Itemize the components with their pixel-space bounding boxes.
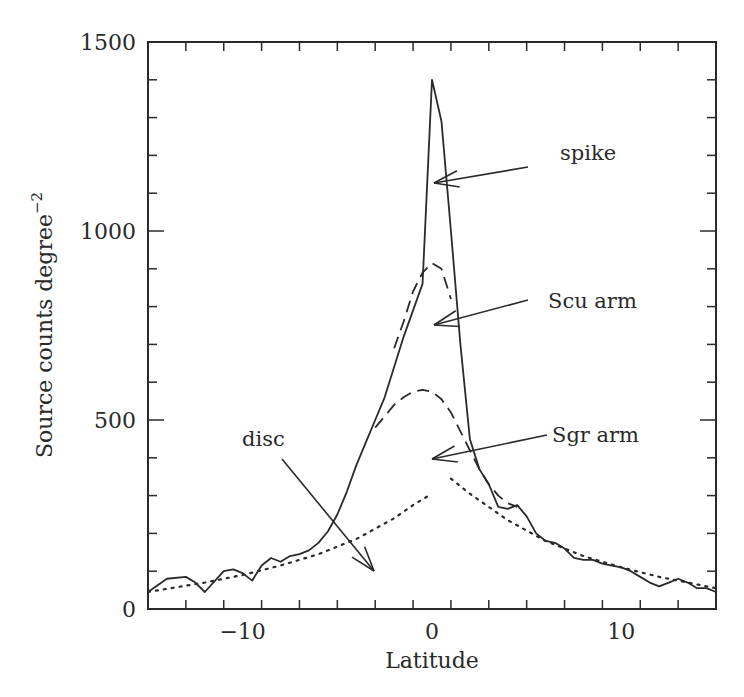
series-disc-model <box>451 479 716 589</box>
y-axis-title: Source counts degree <box>32 214 57 458</box>
plot-frame <box>148 42 716 609</box>
annotations: spikeScu armSgr armdisc <box>242 141 639 571</box>
x-tick-label: 10 <box>607 619 635 644</box>
arrowhead-icon <box>432 459 458 462</box>
latitude-source-counts-chart: spikeScu armSgr armdisc −10010 050010001… <box>0 0 744 697</box>
annotation-label-spike: spike <box>560 141 616 165</box>
y-axis-title-superscript: −2 <box>28 192 46 214</box>
x-tick-labels: −10010 <box>219 619 635 644</box>
y-tick-label: 1500 <box>80 30 136 55</box>
y-tick-label: 1000 <box>80 219 136 244</box>
annotation-arrow-sgr-arm <box>432 435 547 459</box>
annotation-label-disc: disc <box>242 427 285 451</box>
arrowhead-icon <box>434 325 460 327</box>
annotation-arrow-scu-arm <box>434 300 528 325</box>
annotation-label-sgr-arm: Sgr arm <box>552 423 639 447</box>
y-tick-label: 500 <box>94 408 136 433</box>
series-sgr-arm-model <box>375 390 517 507</box>
axis-ticks <box>148 42 716 609</box>
series-disc-model <box>148 494 432 592</box>
x-tick-label: −10 <box>219 619 265 644</box>
series-observed-source-counts <box>148 80 716 592</box>
y-axis-title-group: Source counts degree−2 <box>28 192 57 458</box>
data-series <box>148 80 716 592</box>
x-axis-title: Latitude <box>385 648 479 673</box>
x-tick-label: 0 <box>425 619 439 644</box>
annotation-label-scu-arm: Scu arm <box>548 289 637 313</box>
y-tick-label: 0 <box>122 597 136 622</box>
svg-text:Source counts degree−2: Source counts degree−2 <box>28 192 57 458</box>
y-tick-labels: 050010001500 <box>80 30 136 622</box>
